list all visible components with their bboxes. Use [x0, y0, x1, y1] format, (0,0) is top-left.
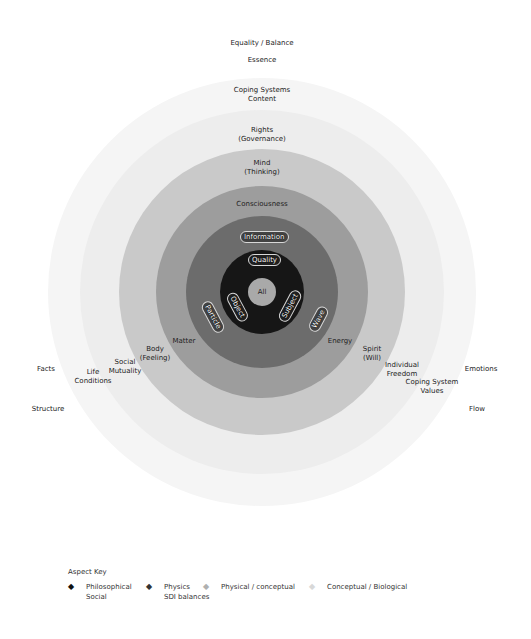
legend-title: Aspect Key: [68, 568, 107, 576]
legend-line: Conceptual / Biological: [327, 582, 407, 592]
label-line: Mind: [244, 159, 279, 168]
legend-item-physics: ◆ Physics SDI balances: [146, 582, 209, 602]
label-line: Rights: [238, 126, 286, 135]
label-mind-thinking: Mind (Thinking): [244, 159, 279, 177]
legend-item-text: Philosophical Social: [86, 582, 132, 602]
label-line: Social: [109, 358, 142, 367]
legend-item-text: Physical / conceptual: [221, 582, 295, 592]
label-line: (Will): [363, 354, 381, 363]
diamond-bullet-icon: ◆: [68, 582, 76, 591]
label-line: Values: [406, 387, 459, 396]
label-matter: Matter: [172, 337, 195, 346]
label-line: Mutuality: [109, 367, 142, 376]
label-energy: Energy: [328, 337, 353, 346]
label-line: Spirit: [363, 345, 381, 354]
legend-item-philosophical: ◆ Philosophical Social: [68, 582, 132, 602]
legend-item-text: Conceptual / Biological: [327, 582, 407, 592]
legend-line: Social: [86, 592, 132, 602]
legend-item-conceptual-biological: ◆ Conceptual / Biological: [309, 582, 407, 592]
label-social-mutuality: Social Mutuality: [109, 358, 142, 376]
label-structure: Structure: [32, 405, 65, 414]
label-line: Individual: [385, 361, 419, 370]
label-rights-governance: Rights (Governance): [238, 126, 286, 144]
label-body-feeling: Body (Feeling): [140, 345, 171, 363]
label-individual-freedom: Individual Freedom: [385, 361, 419, 379]
label-line: (Feeling): [140, 354, 171, 363]
label-facts: Facts: [37, 365, 55, 374]
label-consciousness: Consciousness: [236, 200, 287, 209]
diamond-bullet-icon: ◆: [203, 582, 211, 591]
legend-line: Physical / conceptual: [221, 582, 295, 592]
pill-quality: Quality: [248, 254, 281, 266]
diamond-bullet-icon: ◆: [309, 582, 317, 591]
label-line: (Thinking): [244, 168, 279, 177]
label-line: Content: [234, 95, 290, 104]
pill-information: Information: [240, 231, 289, 243]
label-equality-balance: Equality / Balance: [230, 39, 293, 48]
label-line: Body: [140, 345, 171, 354]
label-essence: Essence: [248, 56, 277, 65]
legend-line: Philosophical: [86, 582, 132, 592]
label-life-conditions: Life Conditions: [74, 368, 111, 386]
label-line: Conditions: [74, 377, 111, 386]
label-line: Coping System: [406, 378, 459, 387]
label-line: (Governance): [238, 135, 286, 144]
diamond-bullet-icon: ◆: [146, 582, 154, 591]
label-flow: Flow: [469, 405, 485, 414]
label-coping-systems-content: Coping Systems Content: [234, 86, 290, 104]
center-label-all: All: [258, 288, 267, 296]
legend-line: SDI balances: [164, 592, 209, 602]
label-spirit-will: Spirit (Will): [363, 345, 381, 363]
label-line: Coping Systems: [234, 86, 290, 95]
label-emotions: Emotions: [465, 365, 498, 374]
label-line: Life: [74, 368, 111, 377]
label-coping-system-values: Coping System Values: [406, 378, 459, 396]
legend-item-physical-conceptual: ◆ Physical / conceptual: [203, 582, 295, 592]
